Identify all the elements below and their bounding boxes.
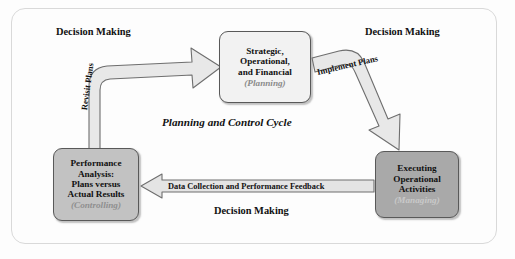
- feedback-label: Data Collection and Performance Feedback: [168, 182, 324, 191]
- decision-making-bottom: Decision Making: [214, 205, 289, 216]
- node-performance[interactable]: Performance Analysis: Plans versus Actua…: [53, 148, 139, 221]
- node-performance-subtitle: (Controlling): [71, 200, 121, 210]
- node-executing-line-3: Activities: [399, 184, 436, 194]
- node-performance-line-3: Plans versus: [72, 179, 121, 189]
- node-planning-line-3: and Financial: [238, 67, 292, 77]
- node-performance-line-1: Performance: [70, 158, 121, 168]
- node-planning-line-1: Strategic,: [246, 46, 284, 56]
- node-performance-line-2: Analysis:: [78, 169, 114, 179]
- cycle-title: Planning and Control Cycle: [162, 116, 292, 128]
- node-executing-line-2: Operational: [393, 174, 440, 184]
- decision-making-top-right: Decision Making: [365, 26, 440, 37]
- node-planning-line-2: Operational,: [240, 56, 290, 66]
- node-performance-line-4: Actual Results: [68, 189, 125, 199]
- diagram-canvas: Strategic, Operational, and Financial (P…: [0, 0, 515, 259]
- revisit-plans-arrow: [89, 48, 221, 152]
- node-planning[interactable]: Strategic, Operational, and Financial (P…: [219, 31, 311, 103]
- node-executing-line-1: Executing: [397, 163, 436, 173]
- node-planning-subtitle: (Planning): [244, 78, 285, 88]
- node-executing[interactable]: Executing Operational Activities (Managi…: [375, 151, 459, 218]
- node-executing-subtitle: (Managing): [394, 195, 439, 205]
- decision-making-top-left: Decision Making: [56, 26, 131, 37]
